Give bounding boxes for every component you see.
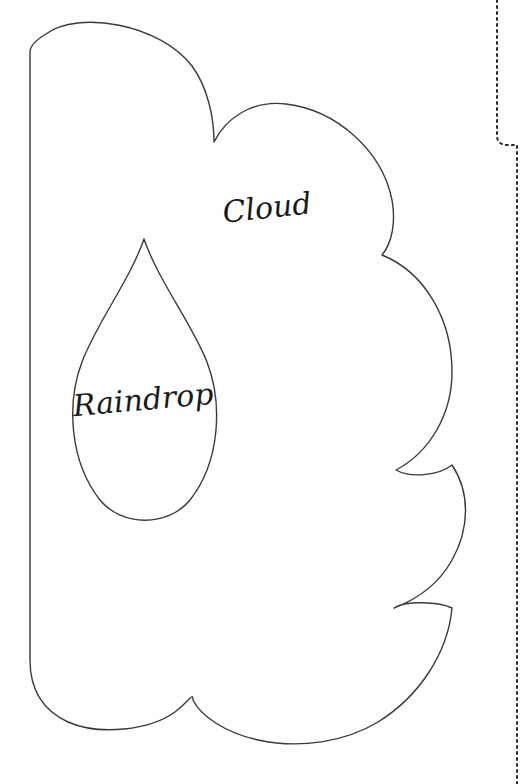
pattern-sheet: Cloud Raindrop <box>0 0 527 784</box>
pattern-canvas: Cloud Raindrop <box>0 0 527 784</box>
